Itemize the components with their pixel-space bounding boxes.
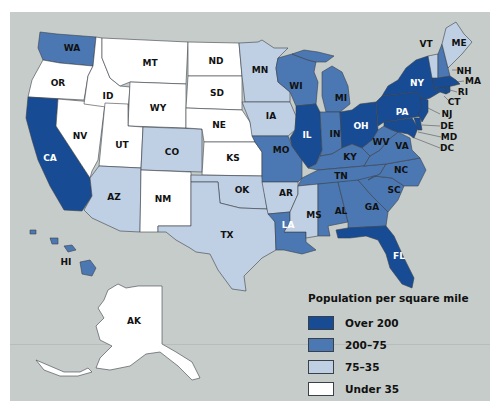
label-ma: MA — [465, 76, 481, 86]
label-ks: KS — [226, 153, 239, 163]
label-dc: DC — [440, 143, 454, 153]
label-nh: NH — [456, 66, 471, 76]
label-in: IN — [330, 129, 341, 139]
label-wv: WV — [373, 137, 390, 147]
label-ri: RI — [458, 87, 468, 97]
legend-item-over-200: Over 200 — [308, 312, 488, 334]
label-nv: NV — [73, 131, 88, 141]
label-ak: AK — [127, 316, 142, 326]
legend: Population per square mile Over 200 200–… — [308, 292, 488, 400]
label-va: VA — [395, 141, 408, 151]
label-id: ID — [103, 91, 114, 101]
label-al: AL — [335, 206, 348, 216]
state-ak — [96, 284, 200, 380]
label-ok: OK — [235, 185, 251, 195]
label-ia: IA — [266, 111, 276, 121]
label-md: MD — [441, 132, 457, 142]
legend-title: Population per square mile — [308, 292, 488, 304]
label-tx: TX — [220, 230, 233, 240]
label-ut: UT — [115, 140, 129, 150]
label-la: LA — [282, 220, 295, 230]
label-az: AZ — [107, 192, 121, 202]
label-ny: NY — [410, 78, 425, 88]
legend-item-75-35: 75–35 — [308, 356, 488, 378]
legend-label: Over 200 — [345, 317, 399, 329]
label-mt: MT — [142, 58, 158, 68]
label-pa: PA — [396, 107, 409, 117]
label-il: IL — [302, 130, 311, 140]
legend-item-200-75: 200–75 — [308, 334, 488, 356]
label-wy: WY — [150, 103, 167, 113]
legend-label: 200–75 — [345, 339, 387, 351]
state-ak-aleutians — [36, 360, 92, 376]
legend-swatch-200-75 — [308, 338, 334, 352]
label-or: OR — [51, 78, 66, 88]
legend-label: Under 35 — [345, 383, 399, 395]
label-fl: FL — [393, 251, 405, 261]
state-hi-maui — [64, 245, 76, 252]
state-mi — [322, 66, 350, 112]
label-wi: WI — [289, 81, 302, 91]
legend-swatch-75-35 — [308, 360, 334, 374]
label-de: DE — [440, 121, 454, 131]
label-wa: WA — [64, 43, 81, 53]
state-hi-oahu — [50, 238, 58, 244]
label-hi: HI — [61, 257, 72, 267]
state-hi-big — [80, 260, 96, 276]
label-nj: NJ — [442, 109, 453, 119]
label-ar: AR — [279, 188, 293, 198]
label-ca: CA — [43, 153, 57, 163]
legend-swatch-over-200 — [308, 316, 334, 330]
label-nm: NM — [155, 194, 172, 204]
label-nc: NC — [394, 165, 409, 175]
label-nd: ND — [208, 56, 223, 66]
label-me: ME — [451, 38, 466, 48]
label-co: CO — [165, 147, 180, 157]
label-ms: MS — [306, 210, 321, 220]
label-mn: MN — [252, 65, 269, 75]
label-sc: SC — [387, 185, 400, 195]
legend-label: 75–35 — [345, 361, 379, 373]
label-ky: KY — [343, 152, 357, 162]
label-tn: TN — [334, 171, 348, 181]
label-ne: NE — [212, 120, 226, 130]
label-sd: SD — [210, 88, 224, 98]
state-ri — [446, 86, 450, 94]
label-vt: VT — [419, 39, 433, 49]
state-hi-kauai — [30, 230, 36, 234]
label-ct: CT — [448, 97, 462, 107]
label-oh: OH — [353, 121, 368, 131]
label-mo: MO — [273, 145, 290, 155]
legend-item-under-35: Under 35 — [308, 378, 488, 400]
label-ga: GA — [365, 202, 379, 212]
legend-swatch-under-35 — [308, 382, 334, 396]
label-mi: MI — [335, 93, 347, 103]
